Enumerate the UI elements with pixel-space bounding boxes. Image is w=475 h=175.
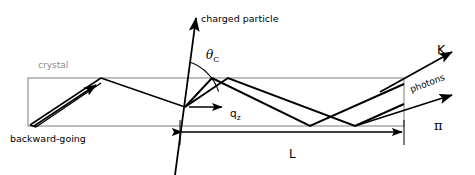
diagram-canvas [0,0,475,175]
crystal-label: crystal [38,61,68,70]
length-label: L [289,148,296,160]
cherenkov-diagram: charged particle crystal backward-going … [0,0,475,175]
theta-subscript: C [213,55,219,64]
qz-label: qz [230,108,241,122]
qz-symbol: q [230,107,237,119]
backward-going-ray [30,78,101,127]
charged-particle-label: charged particle [201,14,279,24]
pion-label: π [434,119,443,132]
qz-subscript: z [237,113,241,122]
cherenkov-angle-label: θC [206,49,219,64]
backward-going-label: backward-going [10,134,86,144]
kaon-label: K [437,44,445,57]
charged-particle-track [175,18,196,175]
length-dimension [180,120,404,145]
backward-ray-descending-segment [101,78,185,107]
backward-going-arrow [34,85,96,126]
